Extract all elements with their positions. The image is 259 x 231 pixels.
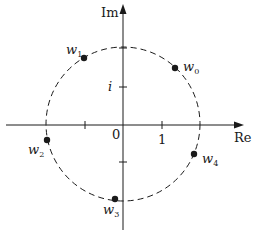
x-axis-label: Re	[234, 131, 251, 144]
imaginary-axis-arrow-icon	[120, 4, 127, 14]
complex-plane-diagram	[0, 0, 259, 231]
label-w0: w0	[183, 60, 199, 73]
point-w2	[44, 137, 50, 143]
label-w3: w3	[103, 203, 119, 216]
label-w2: w2	[28, 143, 44, 156]
y-axis-label: Im	[101, 6, 118, 19]
origin-label: 0	[112, 128, 120, 141]
point-w4	[191, 151, 197, 157]
x-tick-label: 1	[158, 133, 166, 146]
point-w0	[172, 65, 178, 71]
real-axis-arrow-icon	[234, 122, 244, 129]
label-w1: w1	[66, 43, 82, 56]
y-tick-label: i	[108, 80, 112, 93]
label-w4: w4	[202, 152, 218, 165]
